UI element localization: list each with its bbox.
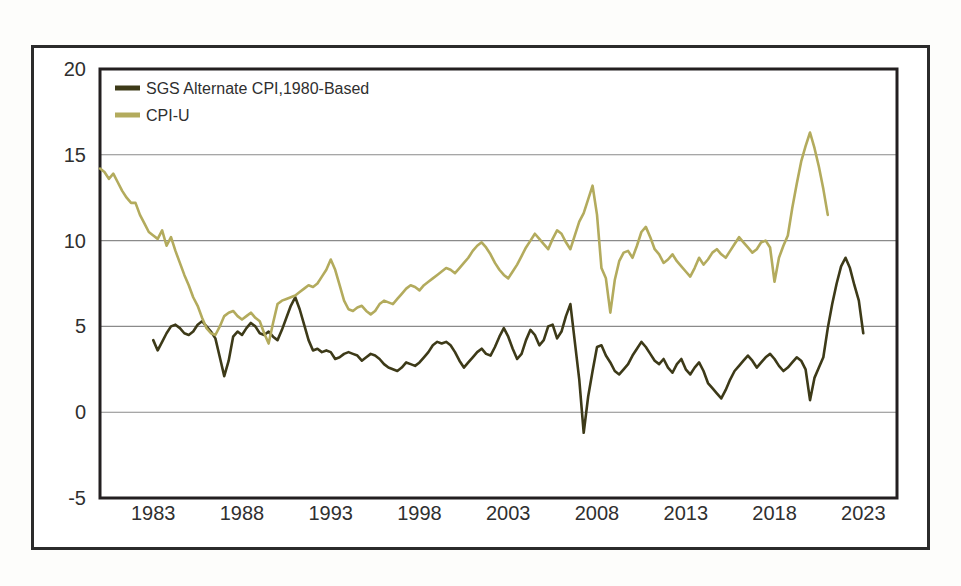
- x-tick-label-2013: 2013: [664, 502, 709, 524]
- y-tick-label-20: 20: [64, 58, 86, 80]
- chart-legend: SGS Alternate CPI,1980-Based CPI-U: [115, 80, 369, 124]
- x-tick-label-1993: 1993: [309, 502, 354, 524]
- series-line-sgs-alternate-cpi: [153, 258, 863, 433]
- x-tick-label-2008: 2008: [575, 502, 620, 524]
- chart-figure: -505101520 19831988199319982003200820132…: [0, 0, 961, 586]
- inflation-line-chart: -505101520 19831988199319982003200820132…: [0, 0, 961, 586]
- y-tick-label-0: 0: [75, 401, 86, 423]
- y-tick-label-5: 5: [75, 315, 86, 337]
- series-group: [100, 132, 863, 432]
- x-tick-label-1998: 1998: [397, 502, 442, 524]
- x-tick-label-1988: 1988: [220, 502, 265, 524]
- plot-area-border: [100, 69, 897, 498]
- x-tick-label-2023: 2023: [841, 502, 886, 524]
- screenshot-page: -505101520 19831988199319982003200820132…: [0, 0, 961, 586]
- y-tick-label--5: -5: [68, 487, 86, 509]
- y-tick-label-10: 10: [64, 230, 86, 252]
- x-tick-label-2018: 2018: [752, 502, 797, 524]
- y-tick-label-group: -505101520: [64, 58, 86, 509]
- legend-label-cpi-u: CPI-U: [146, 107, 190, 124]
- x-tick-label-2003: 2003: [486, 502, 531, 524]
- x-tick-label-1983: 1983: [131, 502, 176, 524]
- legend-label-sgs-alternate-cpi: SGS Alternate CPI,1980-Based: [146, 80, 369, 97]
- x-tick-label-group: 198319881993199820032008201320182023: [131, 502, 886, 524]
- y-tick-label-15: 15: [64, 144, 86, 166]
- gridline-group: [100, 155, 897, 412]
- series-line-cpi-u: [100, 132, 828, 343]
